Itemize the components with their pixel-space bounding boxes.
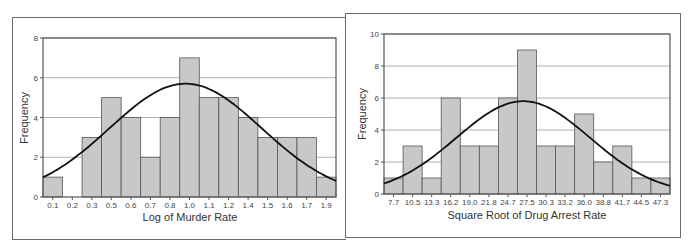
x-tick-label: 0.5	[106, 201, 118, 210]
histogram-bar	[141, 157, 161, 197]
x-tick-label: 21.8	[481, 198, 497, 207]
y-axis-title: Frequency	[356, 88, 368, 140]
x-tick-label: 1.4	[243, 201, 255, 210]
histogram-bar	[82, 137, 102, 197]
x-tick-label: 33.2	[557, 198, 573, 207]
drug-arrest-histogram: 02468107.710.513.316.219.021.824.727.530…	[356, 30, 670, 221]
x-tick-label: 1.5	[262, 201, 274, 210]
y-tick-label: 2	[34, 153, 39, 162]
x-tick-label: 0.8	[164, 201, 176, 210]
x-tick-label: 38.8	[595, 198, 611, 207]
x-axis-title: Log of Murder Rate	[143, 211, 238, 223]
x-tick-label: 1.9	[321, 201, 333, 210]
x-tick-label: 10.5	[405, 198, 421, 207]
histogram-bar	[479, 146, 498, 194]
y-tick-label: 8	[375, 62, 380, 71]
x-tick-label: 41.7	[615, 198, 631, 207]
histogram-bar	[258, 137, 278, 197]
y-tick-label: 8	[34, 34, 39, 43]
x-tick-label: 16.2	[443, 198, 459, 207]
histogram-bar	[422, 178, 441, 194]
x-tick-label: 1.2	[223, 201, 235, 210]
histogram-charts: 024680.10.20.30.50.60.70.81.01.11.21.41.…	[0, 0, 690, 249]
y-tick-label: 10	[370, 30, 379, 39]
histogram-bar	[460, 146, 479, 194]
x-tick-label: 1.1	[203, 201, 215, 210]
histogram-bar	[594, 162, 613, 194]
histogram-bar	[556, 146, 575, 194]
x-tick-label: 30.3	[538, 198, 554, 207]
murder-rate-histogram: 024680.10.20.30.50.60.70.81.01.11.21.41.…	[18, 34, 336, 223]
x-tick-label: 0.3	[86, 201, 98, 210]
y-tick-label: 0	[375, 190, 380, 199]
histogram-bar	[219, 98, 239, 197]
histogram-bar	[613, 146, 632, 194]
y-tick-label: 6	[375, 94, 380, 103]
histogram-bar	[537, 146, 556, 194]
histogram-bar	[297, 137, 317, 197]
histogram-bar	[180, 58, 200, 197]
histogram-bar	[102, 98, 122, 197]
x-tick-label: 19.0	[462, 198, 478, 207]
histogram-bar	[632, 178, 651, 194]
histogram-bar	[498, 98, 517, 194]
x-tick-label: 47.3	[653, 198, 669, 207]
y-tick-label: 6	[34, 74, 39, 83]
x-tick-label: 1.7	[301, 201, 313, 210]
histogram-bar	[199, 98, 219, 197]
x-tick-label: 24.7	[500, 198, 516, 207]
histogram-bar	[277, 137, 297, 197]
x-tick-label: 1.6	[282, 201, 294, 210]
x-tick-label: 0.2	[67, 201, 79, 210]
histogram-bar	[517, 50, 536, 194]
y-tick-label: 0	[34, 193, 39, 202]
x-tick-label: 0.1	[47, 201, 59, 210]
x-tick-label: 0.7	[145, 201, 157, 210]
histogram-bar	[121, 118, 141, 198]
y-axis-title: Frequency	[18, 92, 30, 144]
x-tick-label: 0.6	[125, 201, 137, 210]
x-tick-label: 27.5	[519, 198, 535, 207]
histogram-bar	[238, 118, 258, 198]
histogram-bar	[160, 118, 180, 198]
histogram-bar	[441, 98, 460, 194]
y-tick-label: 2	[375, 158, 380, 167]
x-tick-label: 44.5	[634, 198, 650, 207]
x-tick-label: 7.7	[388, 198, 400, 207]
x-tick-label: 1.0	[184, 201, 196, 210]
x-tick-label: 13.3	[424, 198, 440, 207]
y-tick-label: 4	[375, 126, 380, 135]
histogram-bar	[575, 114, 594, 194]
x-tick-label: 36.0	[576, 198, 592, 207]
histogram-bar	[43, 177, 63, 197]
y-tick-label: 4	[34, 114, 39, 123]
x-axis-title: Square Root of Drug Arrest Rate	[448, 209, 607, 221]
